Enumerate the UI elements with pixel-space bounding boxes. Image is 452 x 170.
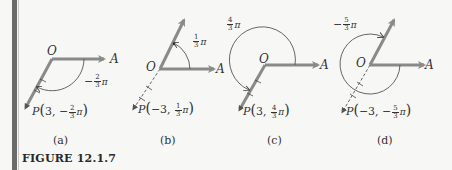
angle-label-d: −53π [333, 17, 357, 32]
angle-label-c: 43π [226, 17, 240, 32]
caption-a: (a) [53, 134, 68, 147]
panel-c-graphic [229, 27, 318, 109]
origin-label-a: O [47, 44, 57, 58]
angle-label-b: 13π [192, 34, 206, 49]
point-label-c: P(3, 43π) [243, 102, 290, 120]
figure-title: FIGURE 12.1.7 [22, 152, 116, 165]
caption-d: (d) [377, 134, 393, 147]
origin-label-c: O [259, 52, 269, 66]
caption-c: (c) [267, 134, 282, 147]
caption-b: (b) [160, 134, 176, 147]
point-label-b: P(−3, 13π) [138, 100, 194, 118]
ray-to-p-a [26, 59, 52, 107]
axis-label-b: A [216, 62, 225, 76]
axis-label-a: A [110, 52, 119, 66]
origin-label-b: O [146, 60, 156, 74]
origin-label-d: O [356, 56, 366, 70]
angle-arc-b [174, 43, 190, 69]
point-label-d: P(−3, −53π) [346, 102, 411, 120]
axis-label-d: A [425, 58, 434, 72]
point-label-a: P(3, −23π) [32, 102, 88, 120]
ray-d [370, 20, 394, 65]
angle-label-a: −23π [84, 74, 108, 89]
axis-label-c: A [320, 58, 329, 72]
ray-b [160, 20, 184, 69]
panel-d-graphic [340, 20, 424, 111]
